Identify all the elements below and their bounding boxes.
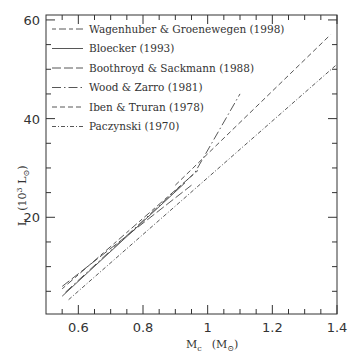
legend-label: Boothroyd & Sackmann (1988) <box>89 62 254 74</box>
x-axis-label: Mc(M⊙) <box>186 338 238 353</box>
x-tick-label: 1.4 <box>327 320 348 335</box>
legend-label: Iben & Truran (1978) <box>89 101 204 113</box>
data-series <box>62 35 337 300</box>
series-line-1 <box>62 183 185 296</box>
legend-label: Wagenhuber & Groenewegen (1998) <box>89 23 284 35</box>
plot-frame <box>46 15 337 314</box>
legend-label: Paczynski (1970) <box>89 120 179 132</box>
x-tick-label: 0.6 <box>68 320 89 335</box>
legend-label: Wood & Zarro (1981) <box>89 81 203 93</box>
y-tick-label: 60 <box>23 13 40 28</box>
legend-label: Bloecker (1993) <box>89 42 174 54</box>
x-tick-label: 1.2 <box>262 320 283 335</box>
legend: Wagenhuber & Groenewegen (1998)Bloecker … <box>52 23 284 133</box>
chart: 0.60.811.21.4 204060 Wagenhuber & Groene… <box>0 0 357 361</box>
x-tick-label: 1 <box>204 320 212 335</box>
x-tick-label: 0.8 <box>133 320 154 335</box>
y-tick-label: 40 <box>23 112 40 127</box>
x-axis-tick-labels: 0.60.811.21.4 <box>68 320 347 335</box>
